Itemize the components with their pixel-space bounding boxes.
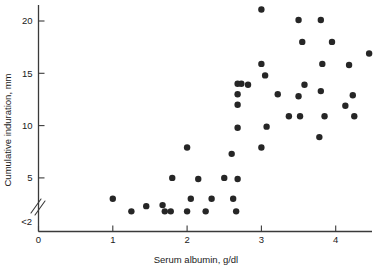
data-point xyxy=(230,196,236,202)
data-point xyxy=(128,208,134,214)
y-tick-label: 15 xyxy=(22,68,33,79)
data-point xyxy=(233,208,239,214)
plot-canvas: 5101520 01234 <2 Serum albumin, g/dl Cum… xyxy=(0,0,378,271)
data-point xyxy=(301,82,307,88)
x-tick-label: 3 xyxy=(259,234,264,245)
x-tick-label: 1 xyxy=(110,234,115,245)
data-point xyxy=(184,208,190,214)
data-point xyxy=(295,17,301,23)
data-point xyxy=(188,196,194,202)
data-point xyxy=(316,134,322,140)
data-point xyxy=(238,81,244,87)
data-point xyxy=(234,101,240,107)
data-point xyxy=(275,91,281,97)
data-point xyxy=(221,175,227,181)
data-point xyxy=(318,17,324,23)
data-point xyxy=(208,196,214,202)
y-tick-label: 5 xyxy=(27,172,32,183)
data-point xyxy=(245,82,251,88)
data-point xyxy=(110,196,116,202)
x-axis-title: Serum albumin, g/dl xyxy=(154,254,238,265)
data-point xyxy=(318,88,324,94)
data-point xyxy=(234,91,240,97)
data-point xyxy=(143,203,149,209)
data-point xyxy=(329,39,335,45)
data-point xyxy=(350,92,356,98)
data-point xyxy=(342,103,348,109)
data-point xyxy=(168,208,174,214)
data-point xyxy=(346,62,352,68)
data-point xyxy=(234,124,240,130)
y-axis-title: Cumulative induration, mm xyxy=(2,73,13,186)
y-tick-label: 10 xyxy=(22,120,33,131)
data-points-layer xyxy=(110,6,373,214)
data-point xyxy=(262,72,268,78)
data-point xyxy=(202,208,208,214)
data-point xyxy=(366,50,372,56)
x-tick-label: 0 xyxy=(36,234,41,245)
y-tick-label: 20 xyxy=(22,15,33,26)
x-tick-label: 2 xyxy=(184,234,189,245)
data-point xyxy=(159,202,165,208)
y-axis-floor-label: <2 xyxy=(21,216,32,227)
data-point xyxy=(319,61,325,67)
data-point xyxy=(169,175,175,181)
data-point xyxy=(258,6,264,12)
axes xyxy=(31,5,372,232)
scatter-plot-figure: 5101520 01234 <2 Serum albumin, g/dl Cum… xyxy=(0,0,378,271)
data-point xyxy=(234,176,240,182)
data-point xyxy=(321,113,327,119)
data-point xyxy=(258,61,264,67)
data-point xyxy=(299,39,305,45)
data-point xyxy=(295,93,301,99)
data-point xyxy=(195,176,201,182)
x-axis-ticks: 01234 xyxy=(36,226,338,246)
data-point xyxy=(162,208,168,214)
data-point xyxy=(228,151,234,157)
x-tick-label: 4 xyxy=(333,234,338,245)
data-point xyxy=(263,123,269,129)
data-point xyxy=(286,113,292,119)
data-point xyxy=(258,144,264,150)
data-point xyxy=(297,113,303,119)
data-point xyxy=(184,144,190,150)
data-point xyxy=(351,113,357,119)
y-axis-ticks: 5101520 xyxy=(22,15,45,183)
